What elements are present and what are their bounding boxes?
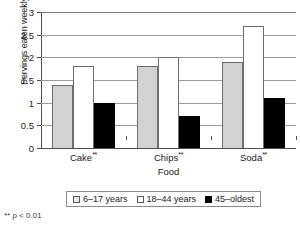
legend-label: 18–44 years xyxy=(147,194,197,204)
legend-swatch-icon xyxy=(73,196,80,203)
bar xyxy=(94,103,115,148)
y-tick-label: 1.5 xyxy=(8,75,34,86)
y-tick-label: 3 xyxy=(8,7,34,18)
bar-group xyxy=(126,12,211,148)
y-tick-mark xyxy=(37,148,41,149)
legend-item: 18–44 years xyxy=(137,194,197,204)
legend-item: 6–17 years xyxy=(73,194,128,204)
legend-label: 45–oldest xyxy=(215,194,254,204)
y-tick-label: 2 xyxy=(8,52,34,63)
bar xyxy=(52,85,73,148)
legend-swatch-icon xyxy=(137,196,144,203)
chart-legend: 6–17 years18–44 years45–oldest xyxy=(66,191,261,207)
bar xyxy=(243,26,264,148)
bar xyxy=(73,66,94,148)
bar xyxy=(137,66,158,148)
gridline xyxy=(41,148,296,149)
bar xyxy=(158,57,179,148)
x-tick-mark xyxy=(41,136,42,140)
bar-group xyxy=(211,12,296,148)
legend-swatch-icon xyxy=(205,196,212,203)
significance-footnote: ** p < 0.01 xyxy=(4,211,42,220)
bar xyxy=(222,62,243,148)
bar xyxy=(179,116,200,148)
x-tick-label: Chips** xyxy=(154,151,183,163)
legend-item: 45–oldest xyxy=(205,194,254,204)
x-tick-mark xyxy=(296,136,297,140)
y-tick-label: 2.5 xyxy=(8,29,34,40)
bar xyxy=(264,98,285,148)
bar-chart-figure: Servings eaten weekly 00.511.522.53 Cake… xyxy=(0,0,300,225)
plot-area: 00.511.522.53 xyxy=(41,12,296,148)
bar-group xyxy=(41,12,126,148)
y-tick-label: 1 xyxy=(8,97,34,108)
x-axis-title: Food xyxy=(41,166,296,177)
y-tick-label: 0.5 xyxy=(8,120,34,131)
x-tick-label: Soda** xyxy=(240,151,267,163)
bar-groups xyxy=(41,12,296,148)
legend-label: 6–17 years xyxy=(83,194,128,204)
x-tick-mark xyxy=(211,136,212,140)
x-tick-mark xyxy=(126,136,127,140)
y-tick-label: 0 xyxy=(8,143,34,154)
x-tick-label: Cake** xyxy=(70,151,97,163)
